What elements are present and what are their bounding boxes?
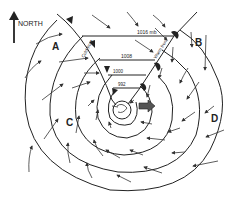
point-label-c: C: [66, 117, 73, 128]
north-arrow-icon: [9, 11, 19, 43]
point-label-b: B: [195, 37, 202, 48]
isobar-label-1016: 1016 mb: [137, 29, 157, 35]
weather-map: NORTH Cold front Warm front 1016 mb: [0, 0, 234, 199]
point-label-a: A: [52, 41, 59, 52]
point-label-d: D: [211, 113, 218, 124]
isobar-label-1000: 1000: [113, 69, 124, 74]
warm-front: [128, 12, 197, 104]
north-label: NORTH: [18, 20, 43, 27]
isobar-label-992: 992: [118, 82, 126, 87]
movement-arrow-icon: [139, 100, 155, 112]
isobar-label-1008: 1008: [121, 53, 132, 59]
